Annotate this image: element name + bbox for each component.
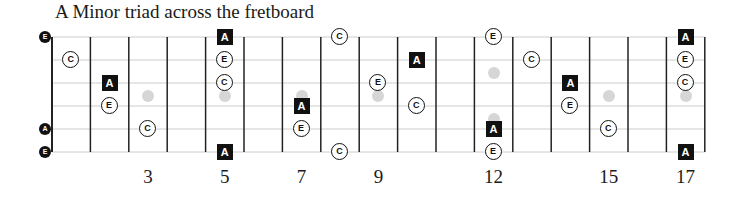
note-e-circle: E — [677, 51, 694, 68]
inlay-dot — [603, 90, 615, 102]
note-c-circle: C — [139, 120, 156, 137]
fret-number-12: 12 — [474, 166, 514, 188]
note-c-circle: C — [523, 51, 540, 68]
root-note-box: A — [678, 29, 694, 45]
fret-number-3: 3 — [128, 166, 168, 188]
root-note-box: A — [217, 29, 233, 45]
fret-number-5: 5 — [205, 166, 245, 188]
note-c-circle: C — [331, 28, 348, 45]
note-c-circle: C — [677, 74, 694, 91]
fret-number-17: 17 — [666, 166, 706, 188]
note-e-circle: E — [293, 120, 310, 137]
note-c-circle: C — [216, 74, 233, 91]
inlay-dot — [680, 90, 692, 102]
note-e-circle: E — [485, 143, 502, 160]
note-e-circle: E — [485, 28, 502, 45]
note-e-circle: E — [101, 97, 118, 114]
root-note-box: A — [678, 144, 694, 160]
inlay-dot — [142, 90, 154, 102]
fret-number-9: 9 — [358, 166, 398, 188]
root-note-box: A — [294, 98, 310, 114]
root-note-box: A — [409, 52, 425, 68]
note-c-circle: C — [331, 143, 348, 160]
inlay-dot — [488, 67, 500, 79]
root-note-box: A — [562, 75, 578, 91]
root-note-box: A — [102, 75, 118, 91]
note-e-circle: E — [216, 51, 233, 68]
open-string-e: E — [39, 31, 51, 43]
inlay-dot — [219, 90, 231, 102]
fret-number-7: 7 — [282, 166, 322, 188]
open-string-e: E — [39, 146, 51, 158]
note-c-circle: C — [408, 97, 425, 114]
note-c-circle: C — [600, 120, 617, 137]
open-string-a: A — [39, 123, 51, 135]
root-note-box: A — [486, 121, 502, 137]
fret-number-15: 15 — [589, 166, 629, 188]
root-note-box: A — [217, 144, 233, 160]
